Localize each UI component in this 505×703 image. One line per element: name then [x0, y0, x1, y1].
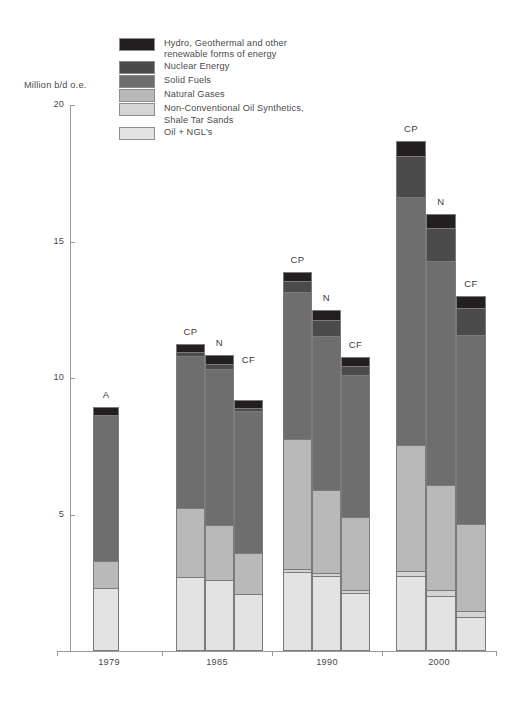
segment-natural-gases: [312, 490, 341, 573]
segment-solid-fuels: [205, 369, 234, 525]
y-tick-label-5: 5: [38, 509, 64, 519]
segment-nuclear: [426, 228, 456, 261]
bar-1990-cf: [341, 357, 370, 651]
bar-label-1979-a: A: [93, 389, 119, 400]
legend-swatch-hydro: [119, 38, 155, 51]
legend-label-solid-fuels: Solid Fuels: [164, 75, 211, 86]
segment-hydro: [205, 355, 234, 364]
y-tick-label-20: 20: [38, 99, 64, 109]
y-tick-mark-15: [70, 242, 75, 243]
bar-1985-n: [205, 355, 234, 651]
segment-solid-fuels: [456, 335, 486, 524]
x-tick-mark-2: [272, 651, 273, 656]
segment-nuclear: [341, 366, 370, 375]
segment-natural-gases: [93, 561, 119, 588]
segment-oil-ngl: [456, 617, 486, 651]
segment-oil-ngl: [312, 576, 341, 651]
segment-solid-fuels: [93, 415, 119, 561]
segment-nuclear: [396, 156, 426, 197]
legend-item-solid-fuels: Solid Fuels: [119, 75, 419, 88]
segment-natural-gases: [283, 439, 312, 569]
segment-natural-gases: [176, 508, 205, 577]
y-tick-mark-20: [70, 105, 75, 106]
legend-label-nuclear: Nuclear Energy: [164, 61, 229, 72]
segment-hydro: [456, 296, 486, 308]
segment-solid-fuels: [176, 356, 205, 508]
segment-nuclear: [456, 308, 486, 335]
segment-oil-ngl: [234, 594, 263, 651]
bar-2000-cf: [456, 296, 486, 651]
segment-oil-ngl: [205, 580, 234, 651]
legend-item-natural-gases: Natural Gases: [119, 89, 419, 102]
legend-label-hydro: Hydro, Geothermal and other renewable fo…: [164, 38, 287, 60]
legend-label-non-conventional-oil: Non-Conventional Oil Synthetics, Shale T…: [164, 103, 304, 125]
bar-1990-n: [312, 310, 341, 651]
segment-natural-gases: [456, 524, 486, 611]
bar-label-1990-cf: CF: [341, 339, 370, 350]
chart-legend: Hydro, Geothermal and other renewable fo…: [119, 38, 419, 141]
bar-1979-a: [93, 407, 119, 651]
legend-item-hydro: Hydro, Geothermal and other renewable fo…: [119, 38, 419, 60]
legend-swatch-solid-fuels: [119, 75, 155, 88]
legend-swatch-nuclear: [119, 61, 155, 74]
x-tick-mark-1: [162, 651, 163, 656]
segment-solid-fuels: [426, 261, 456, 485]
bar-1985-cf: [234, 400, 263, 651]
segment-solid-fuels: [283, 292, 312, 439]
bar-1990-cp: [283, 272, 312, 651]
y-tick-mark-10: [70, 378, 75, 379]
legend-label-natural-gases: Natural Gases: [164, 89, 225, 100]
bar-label-2000-cp: CP: [396, 123, 426, 134]
x-axis-label-1979: 1979: [79, 657, 139, 667]
segment-nuclear: [283, 281, 312, 292]
legend-item-non-conventional-oil: Non-Conventional Oil Synthetics, Shale T…: [119, 103, 419, 125]
segment-oil-ngl: [341, 593, 370, 651]
bar-1985-cp: [176, 344, 205, 651]
bar-label-1990-cp: CP: [283, 254, 312, 265]
segment-hydro: [341, 357, 370, 366]
segment-nuclear: [312, 320, 341, 336]
segment-solid-fuels: [234, 411, 263, 553]
segment-natural-gases: [341, 517, 370, 590]
segment-solid-fuels: [396, 197, 426, 445]
segment-hydro: [283, 272, 312, 281]
y-tick-mark-5: [70, 515, 75, 516]
segment-hydro: [93, 407, 119, 415]
x-axis-label-1985: 1985: [187, 657, 247, 667]
bar-label-2000-n: N: [426, 196, 456, 207]
segment-natural-gases: [234, 553, 263, 594]
x-axis-line: [57, 651, 497, 652]
y-tick-label-15: 15: [38, 236, 64, 246]
segment-natural-gases: [426, 485, 456, 590]
segment-solid-fuels: [312, 336, 341, 490]
segment-oil-ngl: [396, 576, 426, 651]
segment-natural-gases: [205, 525, 234, 580]
segment-oil-ngl: [93, 588, 119, 651]
chart-container: Hydro, Geothermal and other renewable fo…: [0, 0, 505, 703]
segment-natural-gases: [396, 445, 426, 571]
segment-oil-ngl: [283, 572, 312, 651]
segment-hydro: [312, 310, 341, 320]
legend-swatch-oil-ngl: [119, 127, 155, 140]
segment-oil-ngl: [426, 596, 456, 651]
segment-hydro: [396, 141, 426, 156]
bar-label-1990-n: N: [312, 292, 341, 303]
x-tick-mark-0: [57, 651, 58, 656]
segment-solid-fuels: [341, 375, 370, 517]
legend-swatch-non-conventional-oil: [119, 103, 155, 116]
x-tick-mark-4: [496, 651, 497, 656]
bar-label-1985-cp: CP: [176, 326, 205, 337]
segment-hydro: [234, 400, 263, 408]
legend-item-nuclear: Nuclear Energy: [119, 61, 419, 74]
legend-swatch-natural-gases: [119, 89, 155, 102]
bar-2000-n: [426, 214, 456, 651]
segment-hydro: [176, 344, 205, 352]
bar-label-2000-cf: CF: [456, 278, 486, 289]
segment-hydro: [426, 214, 456, 228]
bar-label-1985-cf: CF: [234, 354, 263, 365]
bar-2000-cp: [396, 141, 426, 651]
y-axis-title: Million b/d o.e.: [24, 80, 86, 90]
y-tick-label-10: 10: [38, 372, 64, 382]
x-axis-label-2000: 2000: [409, 657, 469, 667]
x-axis-label-1990: 1990: [297, 657, 357, 667]
